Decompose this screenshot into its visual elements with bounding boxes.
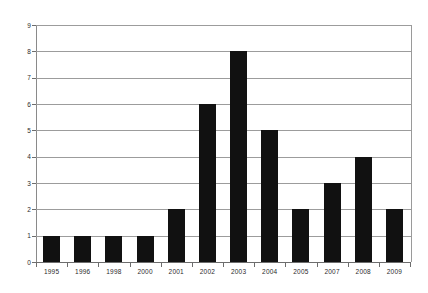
gridline [36, 130, 411, 131]
x-tick-mark [348, 262, 349, 267]
y-tick-label: 0 [6, 259, 36, 266]
gridline [36, 78, 411, 79]
x-tick-mark [161, 262, 162, 267]
x-tick-mark [317, 262, 318, 267]
bar [168, 209, 185, 262]
x-tick-mark [192, 262, 193, 267]
x-tick-label: 2001 [161, 268, 192, 276]
x-tick-mark [36, 262, 37, 267]
y-tick-label: 5 [6, 127, 36, 134]
x-tick-label: 2002 [192, 268, 223, 276]
bar [261, 130, 278, 262]
y-tick-label: 2 [6, 206, 36, 213]
x-tick-mark [67, 262, 68, 267]
x-tick-label: 2005 [285, 268, 316, 276]
x-tick-label: 2009 [379, 268, 410, 276]
bar [324, 183, 341, 262]
bar [199, 104, 216, 262]
gridline [36, 25, 411, 26]
bar [292, 209, 309, 262]
x-tick-label: 2008 [348, 268, 379, 276]
gridline [36, 51, 411, 52]
y-tick-label: 3 [6, 180, 36, 187]
bar [105, 236, 122, 262]
bar-chart: 0123456789 19951996199820002001200220032… [0, 0, 428, 293]
bar [355, 157, 372, 262]
x-tick-label: 2000 [130, 268, 161, 276]
bar [386, 209, 403, 262]
x-tick-label: 2003 [223, 268, 254, 276]
x-tick-label: 1995 [36, 268, 67, 276]
bar [74, 236, 91, 262]
y-tick-label: 9 [6, 22, 36, 29]
x-tick-mark [130, 262, 131, 267]
x-tick-label: 2007 [317, 268, 348, 276]
x-tick-mark [223, 262, 224, 267]
x-tick-label: 2004 [254, 268, 285, 276]
gridline [36, 104, 411, 105]
y-tick-label: 8 [6, 48, 36, 55]
y-tick-label: 7 [6, 74, 36, 81]
bar [43, 236, 60, 262]
x-tick-mark [254, 262, 255, 267]
x-tick-mark [410, 262, 411, 267]
y-tick-label: 6 [6, 101, 36, 108]
x-tick-mark [285, 262, 286, 267]
x-tick-label: 1998 [98, 268, 129, 276]
x-tick-mark [98, 262, 99, 267]
bar [137, 236, 154, 262]
bar [230, 51, 247, 262]
x-tick-label: 1996 [67, 268, 98, 276]
x-tick-mark [379, 262, 380, 267]
y-tick-label: 1 [6, 232, 36, 239]
y-tick-label: 4 [6, 153, 36, 160]
